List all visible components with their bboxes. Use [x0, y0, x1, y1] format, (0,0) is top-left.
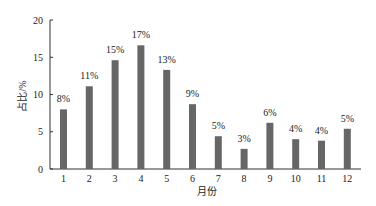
- bar: [137, 45, 144, 169]
- x-tick-label: 12: [342, 173, 352, 184]
- x-tick-label: 1: [61, 173, 66, 184]
- y-axis-title: 占比/%: [16, 80, 28, 111]
- bar: [266, 123, 273, 169]
- bar: [241, 149, 248, 169]
- y-axis: 05101520: [33, 15, 53, 175]
- bar: [86, 86, 93, 169]
- x-tick-label: 2: [87, 173, 92, 184]
- bar: [112, 60, 119, 169]
- bar-value-label: 15%: [106, 44, 124, 55]
- x-tick-label: 10: [291, 173, 301, 184]
- x-tick-label: 3: [113, 173, 118, 184]
- y-tick-label: 5: [38, 126, 43, 137]
- bar-value-label: 3%: [237, 133, 250, 144]
- bar-value-label: 17%: [132, 29, 150, 40]
- bar-value-label: 11%: [80, 70, 98, 81]
- bar: [189, 104, 196, 169]
- x-tick-label: 4: [138, 173, 143, 184]
- bar-value-label: 4%: [289, 123, 302, 134]
- bar: [163, 70, 170, 169]
- x-axis: 123456789101112: [50, 169, 361, 184]
- bar: [215, 136, 222, 169]
- bar-value-label: 5%: [212, 120, 225, 131]
- x-axis-title: 月份: [197, 186, 217, 197]
- bar: [344, 129, 351, 169]
- bar-value-label: 4%: [315, 125, 328, 136]
- bar-value-label: 6%: [263, 107, 276, 118]
- bar: [60, 109, 67, 169]
- x-tick-label: 5: [164, 173, 169, 184]
- y-tick-label: 15: [33, 52, 43, 63]
- x-tick-label: 7: [216, 173, 221, 184]
- bar-chart: 05101520 123456789101112 8%11%15%17%13%9…: [0, 0, 376, 206]
- bar: [318, 141, 325, 169]
- y-tick-label: 20: [33, 15, 43, 26]
- x-tick-label: 9: [267, 173, 272, 184]
- bar-series: 8%11%15%17%13%9%5%3%6%4%4%5%: [57, 29, 354, 169]
- bar: [292, 139, 299, 169]
- bar-value-label: 13%: [158, 54, 176, 65]
- y-tick-label: 10: [33, 89, 43, 100]
- x-tick-label: 6: [190, 173, 195, 184]
- bar-value-label: 9%: [186, 88, 199, 99]
- x-tick-label: 8: [242, 173, 247, 184]
- x-tick-label: 11: [317, 173, 327, 184]
- bar-value-label: 5%: [341, 113, 354, 124]
- y-tick-label: 0: [38, 164, 43, 175]
- bar-value-label: 8%: [57, 93, 70, 104]
